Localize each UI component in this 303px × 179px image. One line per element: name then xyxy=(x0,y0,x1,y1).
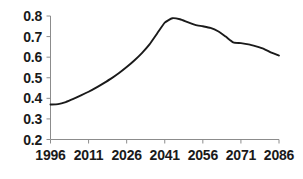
y-axis-tick-label: 0.4 xyxy=(12,90,42,106)
y-axis-tick-label: 0.8 xyxy=(12,8,42,24)
y-axis-ticks xyxy=(47,16,51,140)
series-line-ratio xyxy=(51,18,280,104)
line-chart: 0.80.70.60.50.40.30.2 199620112026204120… xyxy=(0,0,303,179)
y-axis-tick-label: 0.6 xyxy=(12,49,42,65)
y-axis-tick-label: 0.3 xyxy=(12,111,42,127)
y-axis-tick-label: 0.7 xyxy=(12,29,42,45)
y-axis-tick-label: 0.5 xyxy=(12,70,42,86)
y-axis-tick-label: 0.2 xyxy=(12,132,42,148)
axis-group xyxy=(47,16,280,144)
x-axis-tick-label: 2086 xyxy=(257,147,301,163)
x-axis-ticks xyxy=(51,140,280,144)
